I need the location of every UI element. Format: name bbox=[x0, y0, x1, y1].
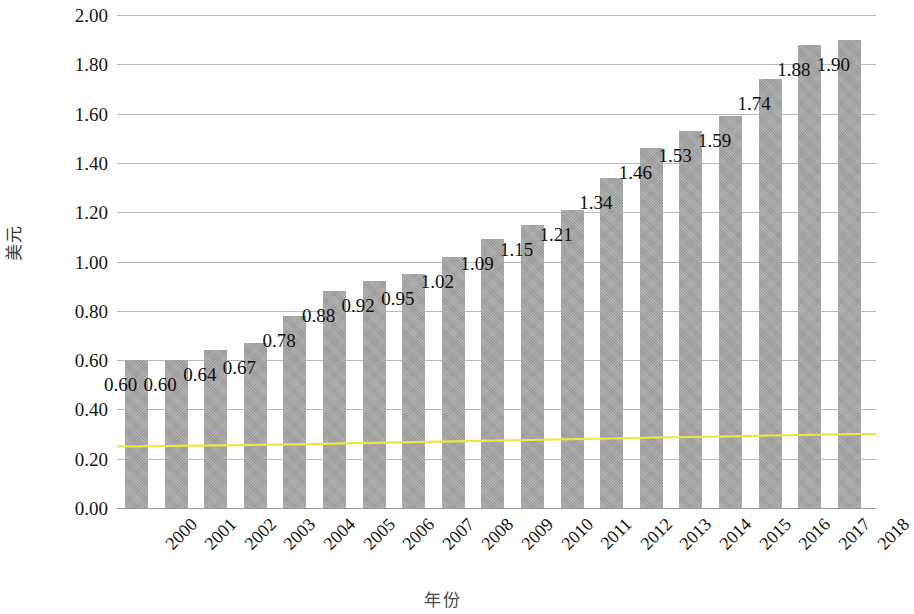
gridline bbox=[117, 64, 876, 65]
bar bbox=[838, 40, 861, 508]
x-axis-tick-label: 2012 bbox=[636, 514, 676, 554]
x-axis-tick-labels: 2000200120022003200420052006200720082009… bbox=[117, 508, 876, 588]
bar-value-label: 0.78 bbox=[262, 331, 295, 350]
x-axis-tick-label-text: 2006 bbox=[399, 514, 439, 554]
y-axis-tick-label: 1.60 bbox=[38, 104, 108, 123]
x-axis-tick-label-text: 2017 bbox=[834, 514, 874, 554]
x-axis-title: 年份 bbox=[0, 586, 885, 611]
bar-value-label: 1.88 bbox=[777, 60, 810, 79]
x-axis-tick-label: 2013 bbox=[676, 514, 716, 554]
gridline bbox=[117, 15, 876, 16]
bar-value-label: 0.64 bbox=[183, 365, 216, 384]
x-axis-tick-label: 2018 bbox=[874, 514, 914, 554]
x-axis-tick-label: 2010 bbox=[557, 514, 597, 554]
bar-value-label: 1.02 bbox=[421, 272, 454, 291]
x-axis-tick-label-text: 2018 bbox=[874, 514, 914, 554]
x-axis-tick-label: 2004 bbox=[319, 514, 359, 554]
y-axis-tick-labels: 2.001.801.601.401.201.000.800.600.400.20… bbox=[38, 0, 108, 614]
x-axis-tick-label-text: 2002 bbox=[240, 514, 280, 554]
bar bbox=[600, 178, 623, 508]
bar-value-label: 1.74 bbox=[738, 94, 771, 113]
bar-value-label: 0.67 bbox=[223, 358, 256, 377]
x-axis-tick-label: 2014 bbox=[715, 514, 755, 554]
bar-value-label: 1.09 bbox=[460, 254, 493, 273]
x-axis-tick-label-text: 2016 bbox=[795, 514, 835, 554]
y-axis-tick-label: 0.40 bbox=[38, 400, 108, 419]
x-axis-tick-label-text: 2007 bbox=[438, 514, 478, 554]
bar bbox=[521, 225, 544, 508]
bar bbox=[798, 45, 821, 508]
bar bbox=[640, 148, 663, 508]
x-axis-tick-label: 2003 bbox=[280, 514, 320, 554]
x-axis-tick-label: 2002 bbox=[240, 514, 280, 554]
bar bbox=[759, 79, 782, 508]
y-axis-tick-label: 0.00 bbox=[38, 499, 108, 518]
y-axis-tick-label: 1.00 bbox=[38, 252, 108, 271]
y-axis-tick-label: 0.60 bbox=[38, 351, 108, 370]
y-axis-tick-label: 0.80 bbox=[38, 301, 108, 320]
bar-value-label: 1.46 bbox=[619, 163, 652, 182]
x-axis-tick-label: 2001 bbox=[201, 514, 241, 554]
bar-value-label: 0.92 bbox=[342, 296, 375, 315]
x-axis-tick-label: 2006 bbox=[399, 514, 439, 554]
y-axis-tick-label: 1.40 bbox=[38, 153, 108, 172]
x-axis-tick-label: 2009 bbox=[517, 514, 557, 554]
y-axis-tick-label: 2.00 bbox=[38, 6, 108, 25]
x-axis-tick-label-text: 2009 bbox=[517, 514, 557, 554]
bar-value-label: 1.15 bbox=[500, 240, 533, 259]
x-axis-tick-label-text: 2004 bbox=[319, 514, 359, 554]
x-axis-tick-label-text: 2012 bbox=[636, 514, 676, 554]
x-axis-tick-label-text: 2003 bbox=[280, 514, 320, 554]
bar-value-label: 1.53 bbox=[658, 146, 691, 165]
bar-value-label: 1.90 bbox=[817, 55, 850, 74]
x-axis-tick-label-text: 2010 bbox=[557, 514, 597, 554]
x-axis-tick-label-text: 2001 bbox=[201, 514, 241, 554]
bar-value-label: 1.59 bbox=[698, 131, 731, 150]
bar bbox=[679, 131, 702, 508]
x-axis-tick-label: 2015 bbox=[755, 514, 795, 554]
y-axis-tick-label: 1.20 bbox=[38, 203, 108, 222]
bar bbox=[719, 116, 742, 508]
bar bbox=[561, 210, 584, 508]
x-axis-tick-label-text: 2013 bbox=[676, 514, 716, 554]
x-axis-tick-label-text: 2014 bbox=[715, 514, 755, 554]
bar-value-label: 1.34 bbox=[579, 193, 612, 212]
x-axis-tick-label: 2007 bbox=[438, 514, 478, 554]
bar bbox=[402, 274, 425, 508]
x-axis-tick-label-text: 2000 bbox=[161, 514, 201, 554]
x-axis-tick-label: 2016 bbox=[795, 514, 835, 554]
plot-area: 0.600.600.640.670.780.880.920.951.021.09… bbox=[117, 15, 876, 508]
x-axis-tick-label-text: 2005 bbox=[359, 514, 399, 554]
x-axis-tick-label-text: 2011 bbox=[596, 514, 636, 554]
x-axis-tick-label: 2000 bbox=[161, 514, 201, 554]
x-axis-tick-label-text: 2015 bbox=[755, 514, 795, 554]
x-axis-tick-label: 2017 bbox=[834, 514, 874, 554]
y-axis-tick-label: 0.20 bbox=[38, 449, 108, 468]
x-axis-tick-label: 2011 bbox=[596, 514, 636, 554]
bar-value-label: 0.88 bbox=[302, 306, 335, 325]
x-axis-tick-label: 2008 bbox=[478, 514, 518, 554]
bar-value-label: 1.21 bbox=[540, 225, 573, 244]
bar-value-label: 0.60 bbox=[104, 375, 137, 394]
bar-value-label: 0.95 bbox=[381, 289, 414, 308]
bar bbox=[481, 239, 504, 508]
bar-value-label: 0.60 bbox=[144, 375, 177, 394]
y-axis-tick-label: 1.80 bbox=[38, 55, 108, 74]
x-axis-tick-label: 2005 bbox=[359, 514, 399, 554]
x-axis-tick-label-text: 2008 bbox=[478, 514, 518, 554]
y-axis-title: 美元 bbox=[0, 203, 25, 283]
bar bbox=[442, 257, 465, 508]
